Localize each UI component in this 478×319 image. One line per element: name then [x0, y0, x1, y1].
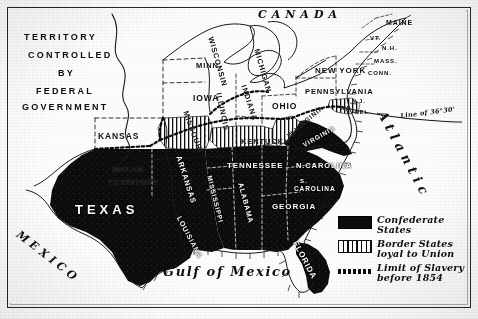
union-state-label: VT.: [370, 35, 381, 41]
confederate-state-label: N.CAROLINA: [296, 162, 352, 170]
confederate-state-label: S.: [300, 178, 307, 184]
canada-label: CANADA: [258, 8, 342, 21]
union-state-label: MAINE: [386, 19, 413, 26]
confederate-state-label: TENNESSEE: [227, 162, 284, 170]
federal-territory-line-2: CONTROLLED: [28, 51, 113, 60]
union-state-label: N.H.: [382, 45, 398, 51]
union-state-label: PENNSYLVANIA: [305, 88, 373, 96]
border-state-label: KENTUCKY: [241, 138, 290, 146]
confederate-state-label: CAROLINA: [294, 186, 336, 193]
confederate-state-label: GEORGIA: [272, 203, 316, 211]
legend-label-slavery-limit: Limit of Slavery before 1854: [377, 263, 470, 283]
federal-territory-line-3: BY: [58, 69, 75, 78]
union-state-label: N.J.: [352, 99, 366, 105]
border-state-label: MD.: [341, 106, 354, 112]
union-state-label: KANSAS: [98, 132, 139, 141]
legend-item-confederate: Confederate States: [338, 215, 470, 235]
union-state-label: INDIAN: [113, 166, 144, 174]
union-state-label: TERRITORY: [108, 179, 159, 187]
legend-item-slavery-limit: Limit of Slavery before 1854: [338, 263, 470, 283]
federal-territory-line-1: TERRITORY: [24, 33, 97, 42]
legend-swatch-slavery-limit: [338, 269, 372, 274]
union-state-label: CONN.: [368, 70, 392, 76]
union-state-label: OHIO: [272, 102, 297, 111]
union-state-label: MASS.: [374, 58, 398, 64]
map-legend: Confederate States Border States loyal t…: [338, 215, 470, 287]
legend-label-border-states: Border States loyal to Union: [377, 239, 470, 259]
legend-swatch-confederate: [338, 216, 372, 229]
legend-item-border-states: Border States loyal to Union: [338, 239, 470, 259]
legend-label-confederate: Confederate States: [377, 215, 470, 235]
map-figure: TERRITORY CONTROLLED BY FEDERAL GOVERNME…: [0, 0, 478, 319]
federal-territory-line-5: GOVERNMENT: [22, 103, 109, 112]
legend-swatch-border-states: [338, 240, 372, 253]
border-state-label: DEL.: [355, 110, 371, 116]
confederate-state-label: TEXAS: [75, 203, 138, 216]
gulf-of-mexico-label: Gulf of Mexico: [163, 264, 292, 279]
union-state-label: NEW YORK: [315, 67, 366, 75]
federal-territory-line-4: FEDERAL: [36, 87, 94, 96]
